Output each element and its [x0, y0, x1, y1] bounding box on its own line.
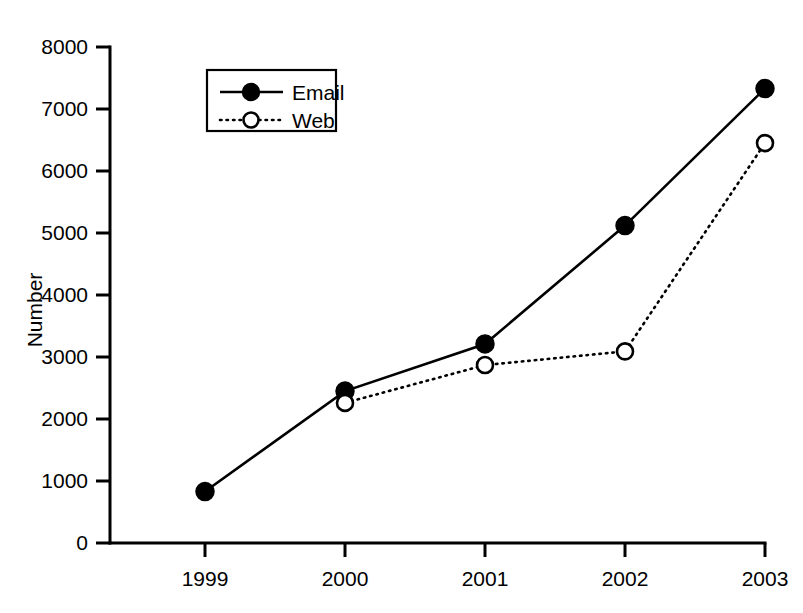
- y-axis: 010002000300040005000600070008000: [41, 35, 110, 554]
- data-point-email-2001: [476, 335, 494, 353]
- y-tick-labels: 010002000300040005000600070008000: [41, 35, 88, 554]
- y-tick-label: 5000: [41, 221, 88, 244]
- line-chart: 010002000300040005000600070008000 199920…: [0, 0, 803, 613]
- chart-canvas: 010002000300040005000600070008000 199920…: [0, 0, 803, 613]
- series-line-web: [345, 143, 765, 403]
- series-email: [196, 80, 774, 501]
- x-tick-label: 2000: [322, 567, 369, 590]
- y-tick-label: 3000: [41, 345, 88, 368]
- series-web: [337, 135, 773, 411]
- legend-label-web: Web: [292, 109, 335, 132]
- legend: EmailWeb: [207, 70, 345, 132]
- y-tick-label: 4000: [41, 283, 88, 306]
- legend-marker-web: [244, 113, 259, 128]
- x-tick-label: 1999: [182, 567, 229, 590]
- y-tick-label: 6000: [41, 159, 88, 182]
- y-tick-marks: [96, 47, 110, 543]
- y-tick-label: 0: [76, 531, 88, 554]
- data-point-email-2003: [756, 80, 774, 98]
- y-tick-label: 1000: [41, 469, 88, 492]
- x-tick-label: 2001: [462, 567, 509, 590]
- data-point-web-2002: [617, 343, 633, 359]
- y-tick-label: 8000: [41, 35, 88, 58]
- data-point-web-2001: [477, 357, 493, 373]
- x-axis: 19992000200120022003: [110, 543, 788, 590]
- series-line-email: [205, 89, 765, 492]
- data-point-web-2003: [757, 135, 773, 151]
- y-tick-label: 7000: [41, 97, 88, 120]
- data-series-layer: [196, 80, 774, 501]
- y-tick-label: 2000: [41, 407, 88, 430]
- x-tick-label: 2002: [602, 567, 649, 590]
- x-tick-marks: [205, 543, 765, 557]
- data-point-email-1999: [196, 483, 214, 501]
- y-axis-title: Number: [23, 273, 46, 348]
- legend-marker-email: [243, 84, 260, 101]
- data-point-web-2000: [337, 395, 353, 411]
- legend-label-email: Email: [292, 81, 345, 104]
- x-tick-labels: 19992000200120022003: [182, 567, 789, 590]
- x-tick-label: 2003: [742, 567, 789, 590]
- data-point-email-2002: [616, 217, 634, 235]
